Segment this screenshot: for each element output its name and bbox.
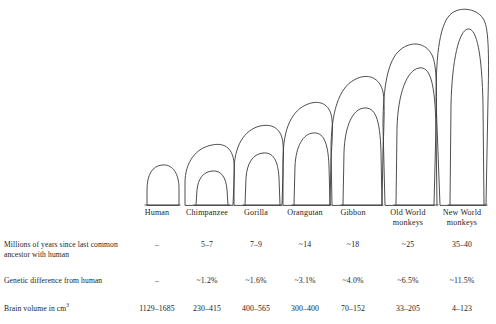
table-row-divergence-time: Millions of years since last common ance… (0, 240, 496, 262)
cladogram-diagram (0, 0, 496, 215)
leg-gibbon-inner (343, 108, 382, 205)
taxon-label-new-world-monkeys: New World monkeys (422, 208, 496, 229)
table-row-genetic-difference: Genetic difference from human – ~1.2% ~1… (0, 276, 496, 290)
cell-brain-new-world: 4–123 (422, 304, 496, 314)
arch-catarrhines (383, 44, 437, 205)
arch-root-all-primates (436, 9, 489, 205)
cell-genetic-new-world: ~11.5% (422, 276, 496, 286)
row-label-divergence-time-line2: ancestor with human (4, 250, 144, 260)
taxa-label-row: Human Chimpanzee Gorilla Orangutan Gibbo… (0, 206, 496, 236)
arch-hominoids (331, 76, 384, 205)
taxon-label-new-world-monkeys-line1: New World (422, 208, 496, 218)
table-row-brain-volume: Brain volume in cm3 1129–1685 230–415 40… (0, 304, 496, 318)
leg-old-world-monkeys-inner (396, 68, 437, 205)
arch-african-great-apes (234, 125, 283, 205)
cell-divergence-new-world: 35–40 (422, 240, 496, 250)
row-label-brain-volume-text: Brain volume in cm (4, 304, 66, 313)
arch-human-terminal (147, 165, 179, 205)
leg-orangutan-inner (294, 133, 330, 205)
leg-gorilla-inner (245, 153, 280, 205)
leg-new-world-monkeys-inner (450, 29, 484, 205)
row-label-brain-volume-exponent: 3 (66, 302, 69, 308)
leg-chimpanzee-inner (196, 171, 228, 205)
taxon-label-new-world-monkeys-line2: monkeys (422, 218, 496, 228)
arch-great-apes (283, 102, 332, 205)
comparative-data-table: Millions of years since last common ance… (0, 236, 496, 324)
